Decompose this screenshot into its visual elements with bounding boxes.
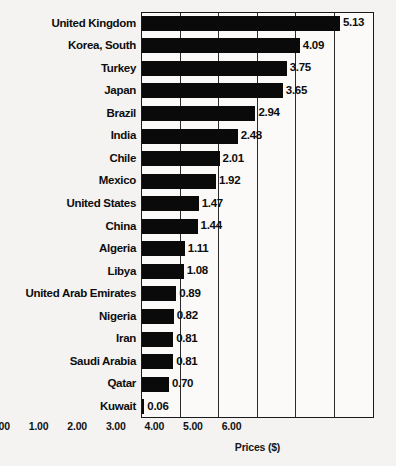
bar-row: Libya1.08 xyxy=(0,260,396,283)
bar-row: Brazil2.94 xyxy=(0,102,396,125)
bar-value-label: 1.44 xyxy=(201,221,222,233)
bar xyxy=(142,151,220,166)
bar xyxy=(142,219,198,234)
bar xyxy=(142,129,238,144)
category-label: United States xyxy=(0,198,136,210)
category-label: Iran xyxy=(0,333,136,345)
bar-value-label: 3.75 xyxy=(290,63,311,75)
bar-value-label: 0.82 xyxy=(177,311,198,323)
bar-row: Mexico1.92 xyxy=(0,170,396,193)
bar-row: Japan3.65 xyxy=(0,80,396,103)
bar-row: Turkey3.75 xyxy=(0,57,396,80)
bar xyxy=(142,241,185,256)
category-label: Libya xyxy=(0,266,136,278)
x-axis-tick-labels: 0.001.002.003.004.005.006.00 xyxy=(0,421,396,435)
bar-value-label: 1.92 xyxy=(219,175,240,187)
bar-row: India2.48 xyxy=(0,125,396,148)
category-label: Brazil xyxy=(0,108,136,120)
bar xyxy=(142,16,340,31)
bar-row: Saudi Arabia0.81 xyxy=(0,350,396,373)
category-label: China xyxy=(0,221,136,233)
category-label: United Arab Emirates xyxy=(0,288,136,300)
bar-chart: United Kingdom5.13Korea, South4.09Turkey… xyxy=(0,0,396,466)
category-label: Nigeria xyxy=(0,311,136,323)
bar-row: Qatar0.70 xyxy=(0,373,396,396)
category-label: Kuwait xyxy=(0,401,136,413)
bar xyxy=(142,38,300,53)
bar-row: Iran0.81 xyxy=(0,328,396,351)
category-label: United Kingdom xyxy=(0,18,136,30)
bar-value-label: 5.13 xyxy=(343,18,364,30)
bar xyxy=(142,286,176,301)
bar-row: Chile2.01 xyxy=(0,147,396,170)
bar-value-label: 3.65 xyxy=(286,85,307,97)
bar-rows: United Kingdom5.13Korea, South4.09Turkey… xyxy=(0,12,396,418)
bar-row: United Kingdom5.13 xyxy=(0,12,396,35)
bar-value-label: 2.94 xyxy=(258,108,279,120)
category-label: India xyxy=(0,130,136,142)
bar-row: Nigeria0.82 xyxy=(0,305,396,328)
x-tick-6.00: 6.00 xyxy=(207,421,257,432)
bar xyxy=(142,399,144,414)
bar xyxy=(142,309,174,324)
bar-row: Korea, South4.09 xyxy=(0,35,396,58)
bar-row: China1.44 xyxy=(0,215,396,238)
bar xyxy=(142,83,283,98)
bar-value-label: 0.81 xyxy=(176,333,197,345)
bar-row: Kuwait0.06 xyxy=(0,395,396,418)
bar xyxy=(142,377,169,392)
bar-value-label: 0.06 xyxy=(147,401,168,413)
bar-value-label: 1.11 xyxy=(188,243,209,255)
bar-value-label: 4.09 xyxy=(303,40,324,52)
category-label: Saudi Arabia xyxy=(0,356,136,368)
bar-value-label: 0.89 xyxy=(179,288,200,300)
bar-value-label: 2.01 xyxy=(223,153,244,165)
bar-value-label: 1.47 xyxy=(202,198,223,210)
category-label: Mexico xyxy=(0,175,136,187)
bar xyxy=(142,61,287,76)
bar-row: United States1.47 xyxy=(0,192,396,215)
bar-value-label: 0.70 xyxy=(172,378,193,390)
category-label: Japan xyxy=(0,85,136,97)
category-label: Algeria xyxy=(0,243,136,255)
category-label: Turkey xyxy=(0,63,136,75)
bar xyxy=(142,264,184,279)
bar xyxy=(142,332,173,347)
category-label: Chile xyxy=(0,153,136,165)
x-axis-title: Prices ($) xyxy=(141,442,374,453)
category-label: Qatar xyxy=(0,378,136,390)
bar xyxy=(142,174,216,189)
bar-row: Algeria1.11 xyxy=(0,238,396,261)
bar-row: United Arab Emirates0.89 xyxy=(0,283,396,306)
category-label: Korea, South xyxy=(0,40,136,52)
bar-value-label: 1.08 xyxy=(187,266,208,278)
bar xyxy=(142,106,255,121)
bar xyxy=(142,354,173,369)
bar-value-label: 2.48 xyxy=(241,130,262,142)
bar-value-label: 0.81 xyxy=(176,356,197,368)
bar xyxy=(142,196,199,211)
